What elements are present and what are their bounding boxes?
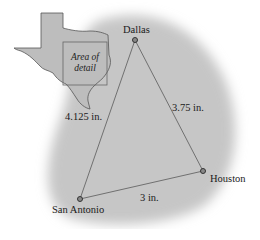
distance-label-san-antonio-dallas: 4.125 in. bbox=[65, 112, 102, 123]
inset-label: Area of detail bbox=[64, 52, 106, 74]
inset-label-line1: Area of bbox=[64, 52, 106, 63]
city-label-san-antonio: San Antonio bbox=[52, 205, 104, 216]
city-label-dallas: Dallas bbox=[123, 25, 150, 36]
distance-label-dallas-houston: 3.75 in. bbox=[172, 103, 204, 114]
inset-label-line2: detail bbox=[64, 63, 106, 74]
houston-dot-icon bbox=[201, 169, 206, 174]
city-label-houston: Houston bbox=[210, 174, 246, 185]
distance-label-san-antonio-houston: 3 in. bbox=[140, 193, 159, 204]
san-antonio-dot-icon bbox=[78, 197, 83, 202]
dallas-dot-icon bbox=[133, 38, 138, 43]
